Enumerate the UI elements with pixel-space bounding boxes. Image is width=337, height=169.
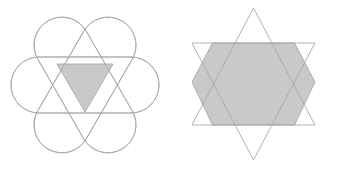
geometry-diagram-svg bbox=[0, 0, 337, 169]
right-shaded-hexagon bbox=[192, 43, 315, 125]
left-shaded-triangle bbox=[57, 64, 113, 112]
geometry-figure-canvas bbox=[0, 0, 337, 169]
left-figure-group bbox=[11, 7, 159, 163]
right-figure-group bbox=[192, 8, 315, 160]
